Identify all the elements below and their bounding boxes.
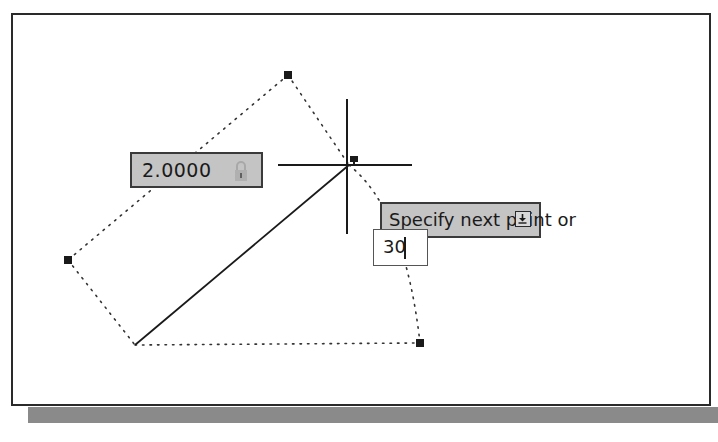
lock-icon[interactable]: [233, 160, 249, 182]
down-arrow-icon: [516, 212, 529, 225]
command-input-value[interactable]: 30: [383, 236, 406, 257]
dimension-input[interactable]: 2.0000: [130, 152, 263, 188]
text-caret: [404, 237, 406, 259]
options-dropdown-button[interactable]: [515, 211, 531, 227]
command-input[interactable]: 30: [373, 229, 428, 266]
rubber-band-line: [135, 165, 349, 345]
dotted-guides: [68, 75, 420, 345]
tooltip-prompt: Specify next point or: [389, 209, 576, 230]
dimension-value[interactable]: 2.0000: [142, 159, 211, 181]
grip-markers: [64, 71, 424, 347]
